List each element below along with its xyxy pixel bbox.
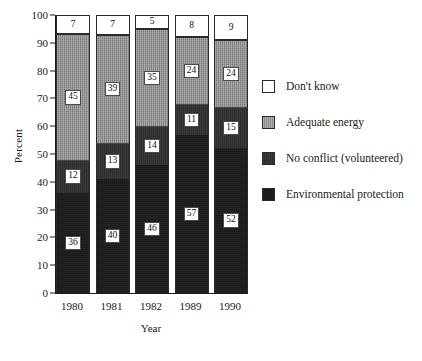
segment-environmental-protection-1982: 46 bbox=[135, 165, 169, 293]
value-label: 52 bbox=[223, 213, 239, 228]
x-tick-label-1981: 1981 bbox=[95, 300, 129, 312]
segment-adequate-energy-1989: 24 bbox=[175, 37, 209, 104]
value-label: 7 bbox=[71, 20, 76, 30]
white-square-swatch-icon bbox=[262, 80, 275, 93]
value-label: 40 bbox=[105, 229, 121, 244]
segment-dont-know-1981: 7 bbox=[96, 15, 130, 34]
value-label: 45 bbox=[65, 90, 81, 105]
value-label: 57 bbox=[184, 207, 200, 222]
gray-square-swatch-icon bbox=[262, 116, 275, 129]
y-tick-label-30: 30 bbox=[8, 204, 48, 215]
value-label: 13 bbox=[105, 154, 121, 169]
value-label: 11 bbox=[184, 113, 199, 128]
segment-adequate-energy-1990: 24 bbox=[214, 40, 248, 107]
legend-item-adequate-energy[interactable]: Adequate energy bbox=[262, 104, 420, 140]
segment-dont-know-1980: 7 bbox=[56, 15, 90, 34]
segment-dont-know-1989: 8 bbox=[175, 15, 209, 37]
legend-item-no-conflict[interactable]: No conflict (volunteered) bbox=[262, 140, 420, 176]
segment-environmental-protection-1989: 57 bbox=[175, 135, 209, 293]
segment-environmental-protection-1980: 36 bbox=[56, 193, 90, 293]
value-label: 46 bbox=[144, 222, 160, 237]
legend-label-dont-know: Don't know bbox=[286, 80, 340, 93]
y-axis-title: Percent bbox=[12, 106, 24, 186]
bar-1980[interactable]: 7 45 12 36 bbox=[56, 15, 90, 293]
legend-label-no-conflict: No conflict (volunteered) bbox=[286, 152, 403, 165]
segment-no-conflict-1981: 13 bbox=[96, 143, 130, 179]
y-tick-label-60: 60 bbox=[8, 121, 48, 132]
value-label: 14 bbox=[144, 139, 160, 154]
dark-gray-square-swatch-icon bbox=[262, 152, 275, 165]
bar-1990[interactable]: 9 24 15 52 bbox=[214, 15, 248, 293]
x-axis-title: Year bbox=[55, 322, 247, 334]
y-tick-label-80: 80 bbox=[8, 65, 48, 76]
value-label: 24 bbox=[184, 64, 200, 79]
bar-group: 7 45 12 36 7 39 bbox=[56, 15, 248, 293]
segment-environmental-protection-1990: 52 bbox=[214, 148, 248, 293]
value-label: 12 bbox=[65, 169, 81, 184]
segment-adequate-energy-1980: 45 bbox=[56, 34, 90, 159]
chart-legend: Don't know Adequate energy No conflict (… bbox=[262, 68, 420, 212]
segment-adequate-energy-1981: 39 bbox=[96, 35, 130, 143]
y-tick-label-0: 0 bbox=[8, 288, 48, 299]
legend-item-dont-know[interactable]: Don't know bbox=[262, 68, 420, 104]
y-tick-label-90: 90 bbox=[8, 37, 48, 48]
y-tick-label-100: 100 bbox=[8, 10, 48, 21]
segment-adequate-energy-1982: 35 bbox=[135, 29, 169, 126]
legend-label-environmental-protection: Environmental protection bbox=[286, 188, 404, 201]
x-tick-label-1989: 1989 bbox=[174, 300, 208, 312]
value-label: 5 bbox=[150, 17, 155, 27]
value-label: 35 bbox=[144, 71, 160, 86]
black-square-swatch-icon bbox=[262, 188, 275, 201]
bar-1981[interactable]: 7 39 13 40 bbox=[96, 15, 130, 293]
value-label: 39 bbox=[105, 82, 121, 97]
legend-item-environmental-protection[interactable]: Environmental protection bbox=[262, 176, 420, 212]
x-axis-tick-labels: 1980 1981 1982 1989 1990 bbox=[55, 300, 247, 312]
y-tick-label-20: 20 bbox=[8, 232, 48, 243]
bar-1982[interactable]: 5 35 14 46 bbox=[135, 15, 169, 293]
value-label: 7 bbox=[110, 20, 115, 30]
value-label: 24 bbox=[223, 67, 239, 82]
segment-environmental-protection-1981: 40 bbox=[96, 179, 130, 293]
segment-no-conflict-1990: 15 bbox=[214, 107, 248, 149]
plot-area: 7 45 12 36 7 39 bbox=[55, 15, 248, 294]
y-tick-label-50: 50 bbox=[8, 149, 48, 160]
value-label: 36 bbox=[65, 236, 81, 251]
value-label: 15 bbox=[223, 121, 239, 136]
value-label: 8 bbox=[189, 21, 194, 31]
x-tick-label-1980: 1980 bbox=[55, 300, 89, 312]
stacked-bar-chart: Percent 100 90 80 70 60 50 40 30 20 10 0… bbox=[0, 0, 422, 361]
x-tick-label-1982: 1982 bbox=[134, 300, 168, 312]
segment-dont-know-1982: 5 bbox=[135, 15, 169, 29]
legend-label-adequate-energy: Adequate energy bbox=[286, 116, 364, 129]
segment-no-conflict-1982: 14 bbox=[135, 126, 169, 165]
y-tick-label-70: 70 bbox=[8, 93, 48, 104]
segment-no-conflict-1980: 12 bbox=[56, 160, 90, 193]
y-tick-label-40: 40 bbox=[8, 176, 48, 187]
bar-1989[interactable]: 8 24 11 57 bbox=[175, 15, 209, 293]
segment-dont-know-1990: 9 bbox=[214, 15, 248, 40]
x-tick-label-1990: 1990 bbox=[213, 300, 247, 312]
y-tick-label-10: 10 bbox=[8, 260, 48, 271]
segment-no-conflict-1989: 11 bbox=[175, 104, 209, 135]
value-label: 9 bbox=[229, 23, 234, 33]
